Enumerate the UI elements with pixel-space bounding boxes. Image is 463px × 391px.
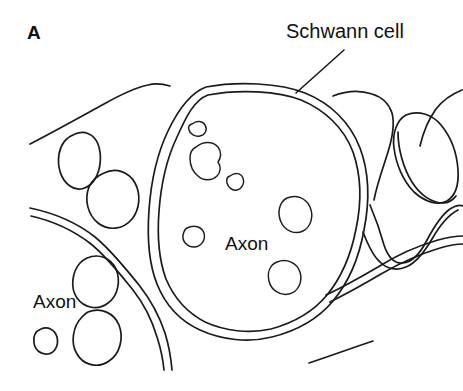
axon-inner-organelle-6 (268, 261, 300, 295)
bottom-right-membrane-inner (326, 236, 463, 295)
right-lower-process-outer (370, 205, 463, 263)
schwann-cell-label: Schwann cell (286, 21, 404, 41)
nerve-cross-section-drawing (0, 0, 463, 391)
axon-inner-organelle-5 (183, 226, 205, 247)
small-axon-upper-left-2 (87, 170, 139, 228)
axon-inner-organelle-1 (189, 121, 207, 136)
upper-left-schwann-process-line (30, 84, 170, 144)
axon-label-left: Axon (33, 292, 76, 311)
right-upper-schwann-line-2 (420, 90, 462, 146)
small-axon-lower-left-2 (73, 310, 121, 365)
axon-inner-organelle-4 (279, 196, 312, 232)
small-axon-lower-left-3 (34, 328, 58, 354)
bottom-right-diagonal-line (309, 341, 373, 363)
figure-panel-a: A Schwann cell Axon Axon (0, 0, 463, 391)
panel-letter-a: A (27, 23, 41, 42)
right-upper-schwann-line-1 (333, 92, 393, 200)
axon-label-center: Axon (225, 234, 268, 253)
lower-left-schwann-membrane-outer (30, 208, 172, 370)
right-elongated-process-inner-fold (398, 132, 456, 203)
axon-inner-organelle-3 (227, 174, 244, 191)
axon-inner-organelle-2 (190, 143, 221, 180)
schwann-cell-leader-line (296, 50, 344, 93)
